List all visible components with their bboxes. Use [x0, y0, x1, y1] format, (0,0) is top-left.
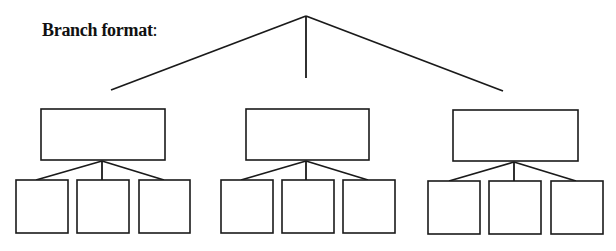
mid-box-right	[453, 110, 578, 161]
child-connector-right-3	[514, 162, 576, 181]
child-connector-center-1	[241, 161, 306, 180]
child-connector-left-1	[36, 161, 102, 180]
leaf-box-left-3	[139, 180, 190, 233]
leaf-box-right-2	[489, 181, 541, 234]
leaf-box-center-2	[282, 180, 334, 233]
leaf-box-right-3	[551, 181, 603, 234]
leaf-box-left-1	[16, 180, 68, 233]
branch-tree-diagram	[0, 0, 616, 251]
root-connector-left	[111, 16, 306, 90]
leaf-box-center-1	[221, 180, 273, 233]
leaf-box-left-2	[77, 180, 129, 233]
mid-box-center	[246, 109, 369, 160]
child-connector-center-3	[306, 161, 368, 180]
child-connector-left-3	[102, 161, 164, 180]
child-connector-right-1	[449, 162, 514, 181]
leaf-box-center-3	[343, 180, 395, 233]
mid-box-left	[41, 109, 165, 160]
root-connector-right	[306, 16, 503, 91]
leaf-box-right-1	[428, 181, 480, 234]
